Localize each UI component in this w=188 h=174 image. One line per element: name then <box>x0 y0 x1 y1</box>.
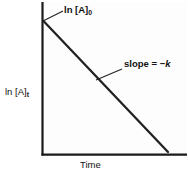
intercept-label-text: ln [A] <box>64 4 88 15</box>
y-axis-label-text: ln [A] <box>5 86 27 97</box>
first-order-kinetics-figure: ln [A]0 slope = −k ln [A]t Time <box>0 0 188 174</box>
slope-label: slope = −k <box>124 59 170 69</box>
intercept-label-subscript: 0 <box>88 9 92 16</box>
rate-constant-symbol: k <box>165 58 170 69</box>
plot-background <box>42 2 187 155</box>
slope-label-text: slope = − <box>124 58 165 69</box>
y-axis-label-subscript: t <box>27 91 29 98</box>
intercept-label: ln [A]0 <box>64 5 92 15</box>
y-axis-label: ln [A]t <box>5 87 29 97</box>
x-axis-label: Time <box>80 160 101 170</box>
